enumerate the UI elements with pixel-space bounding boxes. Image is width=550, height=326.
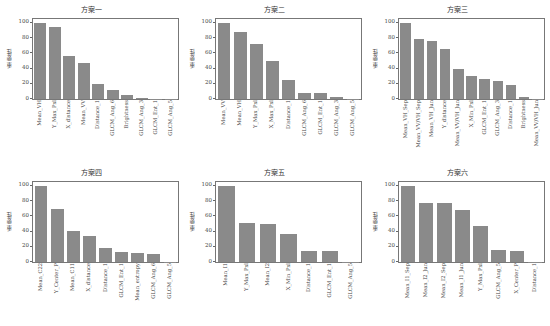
bar xyxy=(342,262,359,263)
bar xyxy=(491,250,506,262)
x-tick-label: X_distance xyxy=(85,263,91,323)
x-tick-label: Mean_VH_Jun xyxy=(428,100,434,160)
bar xyxy=(519,97,530,99)
chart-panel-6: 方案六重要性020406080100Mean_I1_SepMean_I2_Jun… xyxy=(366,163,549,326)
bar xyxy=(280,234,297,262)
y-tick-mark xyxy=(30,37,32,38)
bar xyxy=(51,209,64,262)
plot-area xyxy=(215,18,362,100)
y-tick-mark xyxy=(213,52,215,53)
bar xyxy=(234,32,247,99)
bar xyxy=(322,251,339,262)
bar xyxy=(78,63,90,99)
x-tick-label: Mean_I1 xyxy=(222,263,228,323)
chart-title: 方案五 xyxy=(183,167,366,177)
bar xyxy=(437,203,452,262)
y-tick-mark xyxy=(213,261,215,262)
y-tick-mark xyxy=(396,231,398,232)
y-tick-label: 20 xyxy=(198,242,212,248)
x-tick-label: GLCM_Ang_6 xyxy=(109,100,115,160)
y-tick-label: 20 xyxy=(15,242,29,248)
bar xyxy=(107,90,119,99)
bar xyxy=(121,95,133,99)
plot-area xyxy=(32,181,179,263)
bar xyxy=(301,251,318,262)
x-tick-label: Mean_I2_Sep xyxy=(440,263,446,323)
x-tick-label: X_Max_Pxl xyxy=(268,100,274,160)
x-tick-label: Mean_C11 xyxy=(69,263,75,323)
y-tick-label: 0 xyxy=(381,258,395,264)
y-tick-label: 100 xyxy=(15,18,29,24)
bar xyxy=(419,203,434,262)
bar xyxy=(532,99,543,100)
x-tick-label: Y_Max_Pxl xyxy=(252,100,258,160)
x-tick-label: GLCM_Ang_5 xyxy=(167,100,173,160)
bar xyxy=(453,69,464,99)
y-tick-mark xyxy=(213,83,215,84)
y-tick-mark xyxy=(396,37,398,38)
x-tick-label: Mean_VV/VH_Sep xyxy=(415,100,421,160)
x-tick-label: X_Center_P xyxy=(513,263,519,323)
bar xyxy=(35,186,48,262)
x-tick-label: Y_Max_Pxl xyxy=(51,100,57,160)
y-tick-mark xyxy=(396,215,398,216)
x-tick-label: GLCM_Ang_5 xyxy=(166,263,172,323)
plot-area xyxy=(398,18,545,100)
bar xyxy=(260,224,277,262)
x-tick-label: GLCM_Ang_5 xyxy=(495,263,501,323)
y-tick-label: 60 xyxy=(381,212,395,218)
x-tick-label: GLCM_Ent_1 xyxy=(118,263,124,323)
bar xyxy=(83,236,96,262)
y-tick-mark xyxy=(213,68,215,69)
bar xyxy=(401,186,416,262)
y-tick-label: 40 xyxy=(381,64,395,70)
y-tick-label: 80 xyxy=(15,197,29,203)
y-tick-label: 100 xyxy=(381,181,395,187)
chart-panel-4: 方案四重要性020406080100Mean_C22Y_Center_PMean… xyxy=(0,163,183,326)
x-tick-label: GLCM_Ent_1 xyxy=(481,100,487,160)
x-tick-label: GLCM_Ang_3 xyxy=(494,100,500,160)
x-tick-label: GLCM_Ang_6 xyxy=(150,263,156,323)
bar xyxy=(67,231,80,262)
bar xyxy=(528,262,543,263)
x-tick-label: Mean_I2 xyxy=(264,263,270,323)
bar xyxy=(131,253,144,262)
x-tick-label: GLCM_Ent_1 xyxy=(326,263,332,323)
y-tick-mark xyxy=(30,261,32,262)
chart-panel-5: 方案五重要性020406080100Mean_I1Y_Max_PxlMean_I… xyxy=(183,163,366,326)
bar xyxy=(330,97,343,99)
bar xyxy=(493,81,504,99)
y-tick-label: 60 xyxy=(198,212,212,218)
y-tick-mark xyxy=(213,22,215,23)
y-tick-mark xyxy=(213,231,215,232)
bar xyxy=(63,56,75,99)
bar xyxy=(239,223,256,262)
y-tick-mark xyxy=(213,185,215,186)
y-tick-mark xyxy=(30,215,32,216)
y-tick-label: 100 xyxy=(15,181,29,187)
bar xyxy=(510,251,525,262)
bar xyxy=(250,44,263,99)
y-tick-label: 40 xyxy=(15,64,29,70)
y-tick-label: 100 xyxy=(198,181,212,187)
bar xyxy=(218,23,231,99)
bar xyxy=(164,262,177,263)
x-tick-label: Distance_1 xyxy=(531,263,537,323)
y-tick-mark xyxy=(30,231,32,232)
bar xyxy=(347,99,360,100)
y-tick-label: 20 xyxy=(198,79,212,85)
x-tick-label: Mean_VH xyxy=(36,100,42,160)
chart-title: 方案二 xyxy=(183,4,366,14)
y-tick-label: 40 xyxy=(15,227,29,233)
bar xyxy=(165,99,177,100)
y-tick-mark xyxy=(396,68,398,69)
y-tick-mark xyxy=(30,200,32,201)
x-tick-label: GLCM_Ang_5 xyxy=(349,100,355,160)
y-tick-label: 20 xyxy=(381,79,395,85)
x-tick-label: Distance_1 xyxy=(507,100,513,160)
bar xyxy=(92,84,104,99)
bar xyxy=(115,252,128,262)
y-tick-mark xyxy=(396,261,398,262)
bar xyxy=(400,23,411,99)
x-tick-label: X_Min_Pxl xyxy=(468,100,474,160)
